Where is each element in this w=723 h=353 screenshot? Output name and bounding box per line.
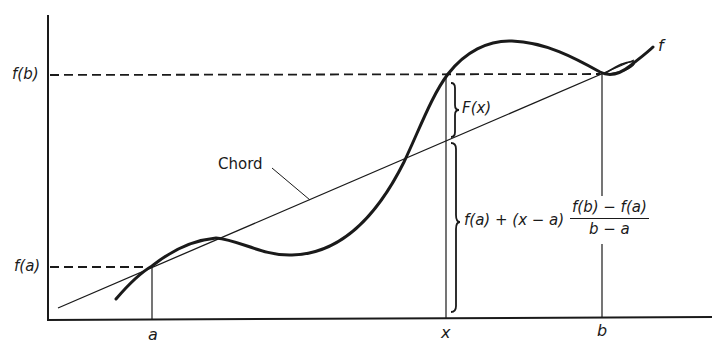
brace-upper-label-fx: F(x): [462, 101, 491, 116]
fb-dashed-guide: [50, 74, 600, 75]
x-tick-label-b: b: [597, 323, 607, 339]
y-tick-label-fa: f(a): [14, 259, 40, 274]
x-tick-label-a: a: [148, 327, 158, 343]
y-tick-label-fb: f(b): [12, 67, 39, 82]
curve-loop-near-b: [604, 62, 634, 74]
chord-leader-line: [272, 168, 310, 200]
brace-lower-chord-value: [451, 143, 460, 312]
brace-upper-fx: [451, 83, 459, 137]
x-axis: [47, 317, 712, 320]
curve-label-f: f: [658, 38, 664, 54]
mean-value-theorem-diagram: f(b) f(a) a x b f Chord F(x) f(a) + (x −…: [0, 0, 723, 353]
fraction-numerator: f(b) − f(a): [570, 200, 649, 219]
brace-lower-formula-fraction: f(b) − f(a) b − a: [570, 200, 649, 237]
fraction-denominator: b − a: [570, 219, 649, 237]
function-curve: [116, 41, 653, 299]
x-tick-label-x: x: [441, 325, 450, 341]
brace-lower-formula-prefix: f(a) + (x − a): [464, 213, 564, 228]
chord-label: Chord: [218, 157, 263, 172]
diagram-canvas: [0, 0, 723, 353]
